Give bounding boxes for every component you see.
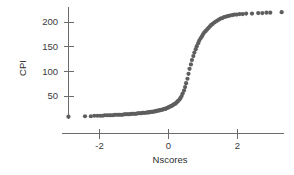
data-point xyxy=(250,12,254,16)
data-point xyxy=(187,67,191,71)
x-axis-tick-labels: -202 xyxy=(95,140,240,151)
y-tick-label: 200 xyxy=(42,16,58,27)
data-point xyxy=(185,77,189,81)
data-point xyxy=(190,58,194,62)
data-point xyxy=(244,12,248,16)
x-tick-label: 2 xyxy=(235,140,240,151)
x-axis: -202 Nscores xyxy=(62,129,284,166)
y-tick-label: 50 xyxy=(47,90,58,101)
data-point xyxy=(83,114,87,118)
x-tick-label: 0 xyxy=(166,140,171,151)
x-tick-label: -2 xyxy=(95,140,103,151)
data-point xyxy=(186,72,190,76)
data-point xyxy=(256,11,260,15)
y-axis: 50100150200 CPI xyxy=(17,7,74,119)
data-point xyxy=(66,115,70,119)
data-point xyxy=(189,62,193,66)
y-axis-tick-labels: 50100150200 xyxy=(42,16,58,101)
data-point xyxy=(280,10,284,14)
y-tick-label: 150 xyxy=(42,41,58,52)
data-point xyxy=(183,85,187,89)
data-point xyxy=(260,11,264,15)
scatter-plot-canvas: 50100150200 CPI -202 Nscores xyxy=(0,0,294,175)
data-point xyxy=(268,11,272,15)
data-point xyxy=(184,81,188,85)
y-axis-title: CPI xyxy=(17,60,28,76)
data-point xyxy=(264,11,268,15)
y-tick-label: 100 xyxy=(42,66,58,77)
x-axis-title: Nscores xyxy=(153,154,188,165)
data-point-series xyxy=(66,10,283,119)
chart-figure: 50100150200 CPI -202 Nscores xyxy=(0,0,294,175)
